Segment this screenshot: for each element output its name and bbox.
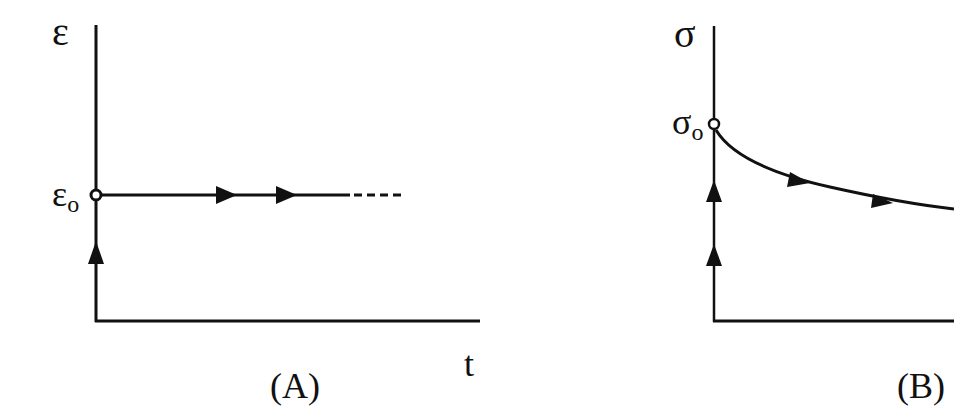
panel-a-up-arrow-icon [88,241,104,264]
panel-b-up-arrow-icon [706,180,722,202]
panel-a-level-label: εo [52,176,79,216]
panel-b-up-arrow-icon [706,244,722,266]
panel-b-curve-arrow-icon [787,172,810,187]
panel-a-caption: (A) [270,368,320,404]
panel-a-right-arrow-icon [216,186,237,204]
diagram-canvas [0,0,954,419]
panel-b-level-subscript: o [691,119,703,145]
panel-a-level-subscript: o [67,191,79,217]
panel-a-origin-point [91,190,101,200]
panel-b-level-label: σo [672,104,703,144]
panel-a-right-arrow-icon [276,186,297,204]
panel-b-y-axis-label: σ [674,14,696,54]
panel-a-x-axis-label: t [464,346,474,382]
panel-b [706,26,954,322]
panel-a [88,25,480,322]
panel-b-level-symbol: σ [672,102,691,142]
panel-b-caption: (B) [897,368,945,404]
panel-b-origin-point [709,119,719,129]
panel-b-stress-curve [716,130,954,209]
panel-b-curve-arrow-icon [871,194,893,208]
panel-a-level-symbol: ε [52,174,67,214]
panel-a-y-axis-label: ε [52,12,69,52]
